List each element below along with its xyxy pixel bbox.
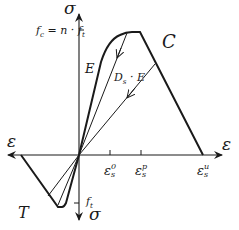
compression-region-label: C xyxy=(162,33,176,51)
stress-strain-diagram: σ σ ε ε C T fc = n · ft ft E Ds · E ε0s … xyxy=(0,0,239,230)
tension-region-label: T xyxy=(18,205,29,221)
damaged-modulus-label: Ds · E xyxy=(114,72,145,85)
tension-envelope xyxy=(21,155,79,207)
fc-equation: fc = n · ft xyxy=(36,25,85,38)
epsilon-right-label: ε xyxy=(222,136,231,153)
sigma-top-label: σ xyxy=(64,0,76,17)
epsilon-left-label: ε xyxy=(7,133,16,150)
strain-label-eps0: ε0s xyxy=(104,163,116,179)
strain-label-epsu: εus xyxy=(197,163,209,179)
modulus-label: E xyxy=(85,62,95,75)
ft-label: ft xyxy=(86,196,93,209)
strain-label-epsp: εps xyxy=(135,163,147,179)
compression-envelope xyxy=(79,32,203,155)
damaged-modulus-arrow xyxy=(127,88,135,98)
unloading-arrow-peak xyxy=(117,48,121,58)
